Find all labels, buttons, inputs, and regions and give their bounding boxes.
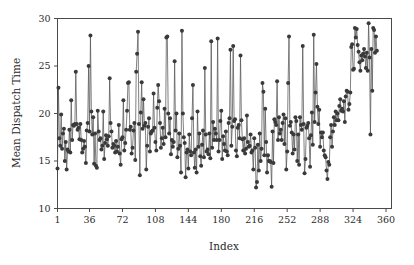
data-point bbox=[123, 141, 127, 145]
data-point bbox=[109, 121, 113, 125]
data-point bbox=[218, 119, 222, 123]
data-point bbox=[211, 120, 215, 124]
data-point bbox=[177, 131, 181, 135]
data-point bbox=[108, 76, 112, 80]
data-point bbox=[231, 44, 235, 48]
data-point bbox=[314, 62, 318, 66]
data-point bbox=[190, 116, 194, 120]
data-point bbox=[293, 148, 297, 152]
data-point bbox=[237, 123, 241, 127]
data-point bbox=[153, 140, 157, 144]
data-point bbox=[348, 91, 352, 95]
data-point bbox=[184, 175, 188, 179]
data-point bbox=[341, 110, 345, 114]
data-point bbox=[167, 131, 171, 135]
data-point bbox=[82, 139, 86, 143]
data-point bbox=[175, 155, 179, 159]
data-point bbox=[258, 131, 262, 135]
data-point bbox=[235, 154, 239, 158]
data-point bbox=[180, 29, 184, 33]
mean-dispatch-time-line-chart: 1015202530 13672108144180216252288324360… bbox=[0, 0, 414, 265]
data-point bbox=[282, 142, 286, 146]
data-point bbox=[188, 150, 192, 154]
data-point bbox=[93, 131, 97, 135]
data-point bbox=[220, 157, 224, 161]
y-axis: 1015202530 bbox=[38, 13, 57, 214]
data-point bbox=[217, 138, 221, 142]
data-point bbox=[138, 173, 142, 177]
data-point bbox=[352, 67, 356, 71]
data-point bbox=[179, 170, 183, 174]
data-point bbox=[292, 132, 296, 136]
x-tick-label: 180 bbox=[212, 214, 230, 225]
data-point bbox=[302, 122, 306, 126]
data-point bbox=[219, 109, 223, 113]
data-point bbox=[191, 83, 195, 87]
data-point bbox=[214, 131, 218, 135]
data-point bbox=[165, 35, 169, 39]
data-point bbox=[121, 98, 125, 102]
data-point bbox=[254, 186, 258, 190]
data-point bbox=[131, 129, 135, 133]
y-tick-label: 20 bbox=[38, 108, 50, 119]
data-point bbox=[329, 123, 333, 127]
data-point bbox=[187, 132, 191, 136]
data-point bbox=[280, 138, 284, 142]
data-point bbox=[356, 43, 360, 47]
data-point bbox=[275, 79, 279, 83]
x-tick-label: 288 bbox=[311, 214, 329, 225]
data-point bbox=[256, 143, 260, 147]
data-point bbox=[216, 36, 220, 40]
data-point bbox=[62, 127, 66, 131]
data-point bbox=[139, 111, 143, 115]
data-point bbox=[222, 142, 226, 146]
data-point bbox=[137, 122, 141, 126]
data-point bbox=[130, 151, 134, 155]
data-point bbox=[159, 146, 163, 150]
data-point bbox=[336, 112, 340, 116]
data-point bbox=[80, 150, 84, 154]
x-tick-label: 360 bbox=[377, 214, 395, 225]
data-point bbox=[204, 132, 208, 136]
data-point bbox=[78, 122, 82, 126]
data-point bbox=[363, 55, 367, 59]
data-point bbox=[242, 136, 246, 140]
data-point bbox=[227, 121, 231, 125]
data-point bbox=[284, 168, 288, 172]
data-point bbox=[278, 131, 282, 135]
data-point bbox=[174, 112, 178, 116]
data-point bbox=[158, 121, 162, 125]
data-point bbox=[203, 66, 207, 70]
y-axis-title: Mean Dispatch Time bbox=[10, 58, 22, 168]
data-point bbox=[318, 145, 322, 149]
data-point bbox=[163, 107, 167, 111]
data-point bbox=[154, 149, 158, 153]
data-point bbox=[370, 89, 374, 93]
data-point bbox=[125, 109, 129, 113]
data-point bbox=[144, 168, 148, 172]
data-point bbox=[291, 151, 295, 155]
data-point bbox=[136, 30, 140, 34]
data-point bbox=[146, 125, 150, 129]
data-point bbox=[217, 150, 221, 154]
data-point bbox=[285, 150, 289, 154]
data-point bbox=[196, 110, 200, 114]
data-point bbox=[347, 102, 351, 106]
data-point bbox=[102, 157, 106, 161]
data-point bbox=[350, 42, 354, 46]
data-point bbox=[245, 113, 249, 117]
data-point bbox=[114, 139, 118, 143]
data-point bbox=[265, 170, 269, 174]
data-point bbox=[325, 169, 329, 173]
data-point bbox=[116, 145, 120, 149]
data-point bbox=[60, 147, 64, 151]
data-point bbox=[252, 136, 256, 140]
data-point bbox=[208, 156, 212, 160]
data-point bbox=[129, 125, 133, 129]
data-point bbox=[362, 47, 366, 51]
x-tick-label: 252 bbox=[278, 214, 296, 225]
x-tick-label: 108 bbox=[146, 214, 164, 225]
data-point bbox=[313, 120, 317, 124]
data-point bbox=[283, 116, 287, 120]
data-point bbox=[156, 83, 160, 87]
